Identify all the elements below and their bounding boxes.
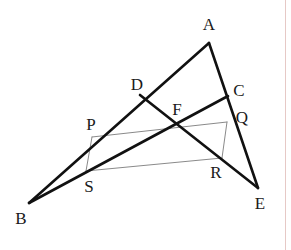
triangle-and-cevian-edges <box>29 43 258 203</box>
point-label-R: R <box>210 164 221 181</box>
point-label-A: A <box>203 16 215 33</box>
point-label-D: D <box>131 76 143 93</box>
segment-BC <box>29 96 228 203</box>
point-label-C: C <box>233 82 244 99</box>
point-label-S: S <box>84 178 93 195</box>
point-label-E: E <box>255 195 265 212</box>
segment-SP <box>86 137 92 171</box>
point-label-P: P <box>86 116 95 133</box>
diagram-canvas: ABCDEFPQRS <box>0 0 291 250</box>
point-label-F: F <box>172 101 181 118</box>
segment-AB <box>29 43 209 203</box>
point-label-B: B <box>15 210 26 227</box>
right-margin-rule <box>285 0 286 250</box>
segment-QR <box>222 122 227 158</box>
point-label-Q: Q <box>236 109 248 126</box>
